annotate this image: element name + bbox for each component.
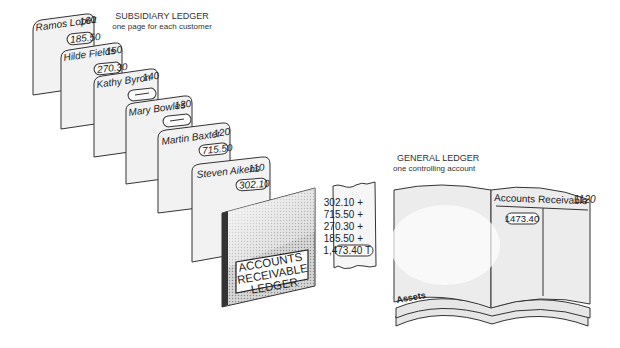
account-number: 110 <box>248 161 265 174</box>
tape-line: 270.30 + <box>324 221 363 232</box>
ledger-diagram: SUBSIDIARY LEDGER one page for each cust… <box>0 0 620 348</box>
tape-line: 302.10 + <box>324 197 363 208</box>
tape-total: 1,473.40 T <box>323 245 371 256</box>
general-ledger-title: GENERAL LEDGER <box>397 153 480 163</box>
page-balance: 302.10 <box>239 178 271 191</box>
subsidiary-ledger-subtitle: one page for each customer <box>112 22 212 31</box>
general-ledger-book: Assets Accounts Receivable 1120 1473.40 <box>390 185 596 326</box>
account-balance: 1473.40 <box>505 213 539 224</box>
subsidiary-ledger-title: SUBSIDIARY LEDGER <box>115 11 209 21</box>
tape-line: 715.50 + <box>324 209 363 220</box>
tape-line: 185.50 + <box>324 233 363 244</box>
account-number: 1120 <box>574 194 596 205</box>
page-balance: 185.50 <box>70 31 102 45</box>
general-ledger-subtitle: one controlling account <box>393 164 476 173</box>
adding-machine-tape: 302.10 + 715.50 + 270.30 + 185.50 + 1,47… <box>323 182 376 269</box>
